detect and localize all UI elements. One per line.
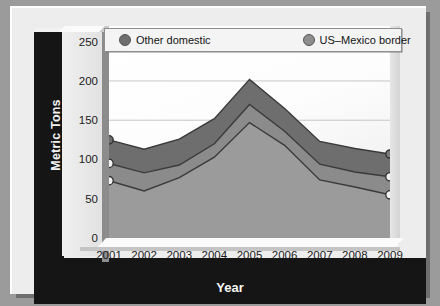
y-tick-label: 50 bbox=[85, 193, 98, 205]
data-point-marker bbox=[109, 136, 113, 144]
y-axis-title: Metric Tons bbox=[49, 65, 63, 205]
plot-right-wall bbox=[390, 26, 400, 244]
data-point-marker bbox=[386, 150, 390, 158]
y-tick-label: 0 bbox=[92, 232, 98, 244]
y-tick-label: 100 bbox=[79, 153, 98, 165]
y-axis-tick-panel: 050100150200250 bbox=[62, 32, 102, 256]
x-tick-label: 2001 bbox=[96, 249, 122, 261]
plot-area bbox=[109, 26, 390, 238]
legend-label: US–Mexico border bbox=[320, 34, 411, 46]
legend-marker-icon bbox=[303, 34, 315, 46]
legend-item[interactable]: US–Mexico border bbox=[303, 34, 411, 46]
y-tick-label: 250 bbox=[79, 36, 98, 48]
x-tick-label: 2007 bbox=[307, 249, 333, 261]
legend-label: Other domestic bbox=[136, 34, 211, 46]
stacked-area-plot bbox=[109, 26, 390, 238]
x-tick-label: 2009 bbox=[377, 249, 403, 261]
x-tick-label: 2003 bbox=[166, 249, 192, 261]
data-point-marker bbox=[386, 173, 390, 181]
x-tick-label: 2005 bbox=[237, 249, 263, 261]
data-point-marker bbox=[109, 176, 113, 184]
x-tick-label: 2006 bbox=[272, 249, 298, 261]
x-tick-label: 2004 bbox=[202, 249, 228, 261]
chart-figure: Metric Tons Year 050100150200250 2001200… bbox=[0, 0, 440, 306]
y-axis-wall bbox=[102, 32, 109, 262]
x-axis-tick-labels: 200120022003200420052006200720082009 bbox=[72, 249, 422, 265]
legend-marker-icon bbox=[119, 34, 131, 46]
data-point-marker bbox=[109, 159, 113, 167]
chart-legend: Other domesticUS–Mexico borderAt sea bbox=[104, 28, 402, 52]
chart-board: Metric Tons Year 050100150200250 2001200… bbox=[10, 6, 426, 294]
legend-item[interactable]: Other domestic bbox=[119, 34, 211, 46]
x-tick-label: 2002 bbox=[131, 249, 157, 261]
y-tick-label: 150 bbox=[79, 114, 98, 126]
x-tick-label: 2008 bbox=[342, 249, 368, 261]
y-axis-title-band: Metric Tons bbox=[34, 32, 64, 280]
data-point-marker bbox=[386, 191, 390, 199]
plot-floor bbox=[98, 238, 404, 247]
y-tick-label: 200 bbox=[79, 75, 98, 87]
x-axis-title: Year bbox=[34, 280, 426, 295]
